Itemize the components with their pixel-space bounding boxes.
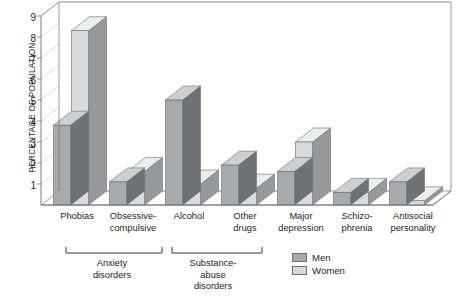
bar-chart: PERCENTAGE OF POPULATION 9 8 7 6 5 4 3 2… (0, 0, 462, 306)
legend: Men Women (292, 252, 345, 278)
legend-item-women: Women (292, 265, 345, 276)
group-label-line2: disorders (57, 270, 167, 282)
legend-swatch-men (292, 253, 307, 262)
legend-item-men: Men (292, 252, 345, 263)
group-label-line1: Anxiety (57, 258, 167, 270)
group-brackets-layer (66, 247, 262, 253)
category-label-line2: personality (365, 223, 461, 235)
legend-label-men: Men (312, 253, 331, 263)
category-label-antisocial-personality: Antisocial personality (365, 211, 461, 234)
group-label-substance-abuse-disorders: Substance- abuse disorders (158, 258, 268, 293)
group-label-line3: disorders (158, 281, 268, 293)
legend-swatch-women (292, 266, 307, 275)
legend-label-women: Women (312, 266, 345, 276)
group-label-line1: Substance- (158, 258, 268, 270)
category-label-line1: Antisocial (365, 211, 461, 223)
group-label-line2: abuse (158, 270, 268, 282)
group-label-anxiety-disorders: Anxiety disorders (57, 258, 167, 281)
category-label-line2: compulsive (85, 223, 181, 235)
